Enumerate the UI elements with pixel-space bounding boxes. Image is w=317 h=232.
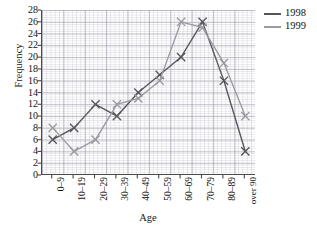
x-tick-label: 50–59 <box>163 177 173 201</box>
y-tick-label: 20 <box>28 52 38 62</box>
x-tick-label: over 90 <box>248 177 258 204</box>
x-tick-label: 80–89 <box>227 177 237 201</box>
data-point-marker <box>177 53 185 61</box>
data-point-marker <box>70 147 78 155</box>
data-point-marker <box>220 59 228 67</box>
y-tick-label: 14 <box>28 88 38 98</box>
series-line-1999 <box>53 22 246 152</box>
y-tick-label: 2 <box>33 158 38 168</box>
y-tick-label: 26 <box>28 17 38 27</box>
x-tick-label: 70–79 <box>206 177 216 201</box>
data-point-marker <box>134 94 142 102</box>
data-point-marker <box>91 136 99 144</box>
series-layer <box>42 10 255 160</box>
y-tick-label: 18 <box>28 64 38 74</box>
data-point-marker <box>49 124 57 132</box>
line-chart: Frequency 0246810121416182022242628 0–91… <box>0 0 317 232</box>
y-tick-label: 10 <box>28 111 38 121</box>
x-tick-label: 10–19 <box>77 177 87 201</box>
legend-item-1998: 1998 <box>264 8 306 19</box>
data-point-marker <box>241 147 249 155</box>
data-point-marker <box>70 124 78 132</box>
data-point-marker <box>113 100 121 108</box>
plot-area <box>41 10 255 175</box>
x-tick-label: 60–69 <box>184 177 194 201</box>
y-tick-label: 12 <box>28 99 38 109</box>
y-tick-label: 4 <box>33 146 38 156</box>
data-point-marker <box>156 77 164 85</box>
legend-label: 1999 <box>285 21 306 32</box>
y-tick-label: 16 <box>28 76 38 86</box>
legend-swatch-icon <box>264 26 281 28</box>
x-tick-label: 40–49 <box>141 177 151 201</box>
x-tick-label: 30–39 <box>120 177 130 201</box>
legend-item-1999: 1999 <box>264 21 306 32</box>
y-axis-tick-labels: 0246810121416182022242628 <box>14 0 38 232</box>
x-axis-title: Age <box>41 212 255 223</box>
y-tick-label: 22 <box>28 40 38 50</box>
legend-label: 1998 <box>285 8 306 19</box>
y-tick-label: 6 <box>33 135 38 145</box>
data-point-marker <box>91 100 99 108</box>
legend-swatch-icon <box>264 13 281 15</box>
data-point-marker <box>49 136 57 144</box>
series-line-1998 <box>53 22 246 152</box>
y-tick-label: 24 <box>28 29 38 39</box>
y-tick-label: 0 <box>33 170 38 180</box>
y-tick-label: 28 <box>28 5 38 15</box>
x-tick-label: 0–9 <box>56 177 66 191</box>
data-point-marker <box>113 112 121 120</box>
x-tick-label: 20–29 <box>99 177 109 201</box>
y-tick-label: 8 <box>33 123 38 133</box>
data-point-marker <box>220 77 228 85</box>
legend: 19981999 <box>264 8 306 32</box>
data-point-marker <box>241 112 249 120</box>
data-point-marker <box>177 18 185 26</box>
